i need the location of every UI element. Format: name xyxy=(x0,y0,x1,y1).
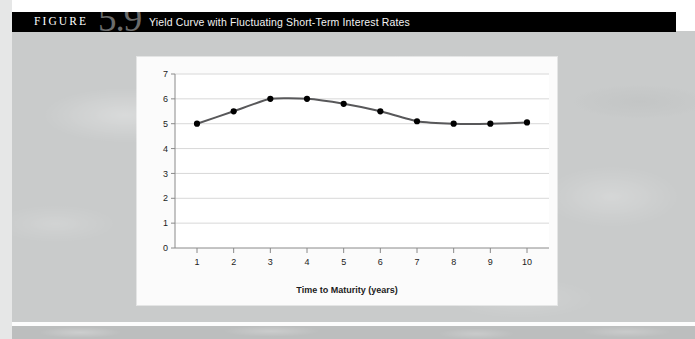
y-tick-label: 5 xyxy=(163,119,168,129)
chart-panel: Yield to Maturity (percent) 012345671234… xyxy=(137,57,557,305)
figure-number: 5.9 xyxy=(98,12,141,32)
x-axis-title: Time to Maturity (years) xyxy=(137,285,557,295)
y-tick-label: 3 xyxy=(163,169,168,179)
y-tick-label: 4 xyxy=(163,144,168,154)
figure-title: Yield Curve with Fluctuating Short-Term … xyxy=(149,16,410,28)
y-tick-label: 2 xyxy=(163,193,168,203)
figure-header-content: FIGURE 5.9 Yield Curve with Fluctuating … xyxy=(12,12,676,32)
data-point-marker xyxy=(524,119,530,125)
footer-band-texture xyxy=(12,326,695,339)
x-tick-label: 7 xyxy=(414,257,419,267)
page-top-margin xyxy=(0,0,695,12)
figure-label: FIGURE xyxy=(34,15,88,27)
data-point-marker xyxy=(451,121,457,127)
line-chart: 0123456712345678910 xyxy=(137,57,557,305)
page-left-margin xyxy=(0,0,12,339)
data-point-marker xyxy=(267,96,273,102)
x-tick-label: 10 xyxy=(522,257,532,267)
data-point-marker xyxy=(304,96,310,102)
plot-area-wrapper: Yield to Maturity (percent) 012345671234… xyxy=(137,57,557,305)
y-tick-label: 6 xyxy=(163,94,168,104)
x-tick-label: 1 xyxy=(194,257,199,267)
x-tick-label: 4 xyxy=(304,257,309,267)
x-tick-label: 3 xyxy=(268,257,273,267)
figure-page: FIGURE 5.9 Yield Curve with Fluctuating … xyxy=(0,0,695,339)
data-point-marker xyxy=(341,101,347,107)
y-tick-label: 7 xyxy=(163,69,168,79)
data-point-marker xyxy=(377,108,383,114)
data-point-marker xyxy=(231,108,237,114)
x-tick-label: 8 xyxy=(451,257,456,267)
y-tick-label: 1 xyxy=(163,218,168,228)
data-point-marker xyxy=(487,121,493,127)
data-point-marker xyxy=(194,121,200,127)
x-tick-label: 5 xyxy=(341,257,346,267)
data-point-marker xyxy=(414,118,420,124)
y-tick-label: 0 xyxy=(163,243,168,253)
figure-header-bar: FIGURE 5.9 Yield Curve with Fluctuating … xyxy=(12,12,676,32)
x-tick-label: 2 xyxy=(231,257,236,267)
page-right-margin xyxy=(676,0,695,31)
x-tick-label: 9 xyxy=(488,257,493,267)
x-tick-label: 6 xyxy=(378,257,383,267)
